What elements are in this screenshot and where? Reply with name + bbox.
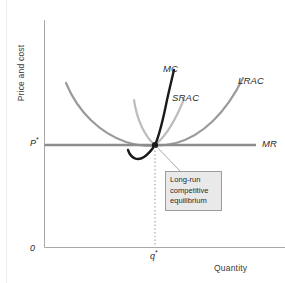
- srac-curve-label: SRAC: [172, 93, 199, 103]
- callout-leader-line: [157, 147, 180, 171]
- equilibrium-callout-box: Long-run competitive equilibrium: [165, 171, 222, 211]
- economics-figure: Price and cost Quantity 0 P* q* MC SRAC …: [0, 0, 285, 283]
- lrac-curve: [66, 78, 243, 146]
- callout-line-3: equilibrium: [170, 196, 218, 207]
- y-axis-title-text: Price and cost: [16, 45, 26, 102]
- srac-curve: [134, 99, 184, 145]
- quantity-star-tick-label: q*: [150, 252, 158, 261]
- price-star-superscript: *: [36, 136, 39, 143]
- y-axis-title: Price and cost: [14, 28, 28, 118]
- lrac-curve-label: LRAC: [238, 76, 264, 86]
- x-axis-title: Quantity: [214, 264, 247, 273]
- callout-line-1: Long-run: [170, 175, 218, 186]
- callout-line-2: competitive: [170, 186, 218, 197]
- origin-label: 0: [30, 244, 35, 253]
- mc-curve-label: MC: [163, 64, 178, 74]
- quantity-star-superscript: *: [155, 249, 158, 256]
- price-star-tick-label: P*: [30, 139, 39, 148]
- chart-canvas: [0, 0, 285, 283]
- mr-line-label: MR: [262, 139, 277, 149]
